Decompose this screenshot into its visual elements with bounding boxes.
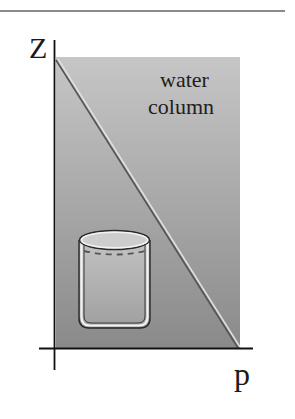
water-column-label-line2: column xyxy=(148,96,214,118)
diagram-canvas: z p water column xyxy=(0,0,295,419)
p-axis-label: p xyxy=(234,358,250,390)
z-axis-label: z xyxy=(29,33,47,63)
water-column-label-line1: water xyxy=(160,69,209,91)
beaker-icon xyxy=(79,231,150,329)
